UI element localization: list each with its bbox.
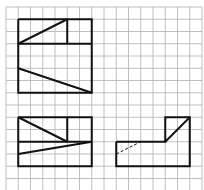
projection-diagram [0,0,204,190]
